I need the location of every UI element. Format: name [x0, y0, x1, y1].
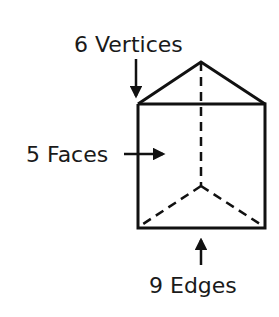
- faces-label: 5 Faces: [26, 142, 108, 167]
- diagram-svg: 6 Vertices 5 Faces 9 Edges: [0, 0, 279, 317]
- prism-diagram: 6 Vertices 5 Faces 9 Edges: [0, 0, 279, 317]
- hidden-edges: [140, 62, 263, 226]
- vertices-label: 6 Vertices: [74, 32, 183, 57]
- edges-label: 9 Edges: [149, 273, 237, 298]
- prism-shape: [138, 62, 265, 228]
